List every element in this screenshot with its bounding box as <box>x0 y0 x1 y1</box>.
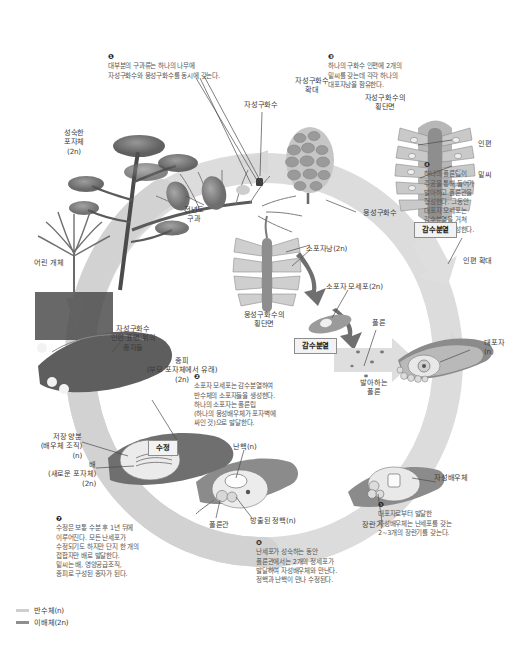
label-ovule: 밑씨 <box>478 170 518 179</box>
note-3: ❸ 하나의 구화수 인편에 2개의 밑씨를 갖는데 각각 하나의 대포자낭을 함… <box>328 44 460 90</box>
legend-label-diploid: 이배체(2n) <box>34 617 68 627</box>
note-3-number: ❸ <box>328 53 334 61</box>
label-female-cone: 자성구화수 <box>228 100 294 109</box>
label-microsporangium: 소포자낭(2n) <box>306 244 378 253</box>
process-box-meiosis-male: 감수분열 <box>294 338 337 354</box>
process-box-fertilization: 수정 <box>148 440 178 456</box>
label-germinating-pollen: 발아하는 폴른 <box>350 378 398 397</box>
label-archegonium: 장란기 <box>362 520 398 529</box>
label-stored-nutrients: 저장 양분 (배우체 조직) (n) <box>6 432 82 460</box>
label-male-cone-section: 웅성구화수의 횡단면 <box>226 310 302 329</box>
legend-item-diploid: 이배체(2n) <box>16 616 68 628</box>
note-2-text: 소포자 모세포는 감수분열하여 반수체의 소포자들을 생성한다. 하나의 소포자… <box>194 382 276 427</box>
label-female-gametophyte: 자성배우체 <box>434 473 494 482</box>
legend-swatch-diploid <box>16 621 29 624</box>
legend: 반수체(n) 이배체(2n) <box>16 604 68 628</box>
label-scale-enlarged: 인편 확대 <box>463 256 519 265</box>
label-pollen-tube: 폴른관 <box>200 520 238 529</box>
label-male-cone: 웅성구화수 <box>350 208 410 217</box>
label-seeds-on-scale: 자성구화수 인편 표면 위의 종자들 <box>92 324 174 352</box>
note-7: ❼ 수정은 보통 수분 후 1년 뒤에 이루어진다. 모든 난세포가 수정되기도… <box>56 506 216 580</box>
note-6-text: 난세포가 성숙하는 동안 폴른관에서는 2개의 정세포가 발달하여 자성배우체와… <box>256 548 337 584</box>
note-7-number: ❼ <box>56 515 62 523</box>
process-box-meiosis-female: 감수분열 <box>414 222 457 238</box>
legend-label-haploid: 반수체(n) <box>34 605 64 615</box>
note-1: ❶ 대부분의 구과류는 하나의 나무에 자성구화수와 웅성구화수를 동시에 갖는… <box>108 44 304 81</box>
label-female-cone-enlarged: 자성구화수 확대 <box>279 76 345 95</box>
note-6-number: ❻ <box>256 539 262 547</box>
label-female-cone-section: 자성구화수의 횡단면 <box>348 93 422 112</box>
label-mature-sporophyte: 성숙한 포자체 (2n) <box>42 128 106 156</box>
microspore-mother-cell-illustration <box>307 311 354 337</box>
legend-swatch-haploid <box>16 609 29 612</box>
note-4-number: ❹ <box>424 161 430 169</box>
note-6: ❻ 난세포가 성숙하는 동안 폴른관에서는 2개의 정세포가 발달하여 자성배우… <box>256 530 418 585</box>
male-cone-section-illustration <box>233 216 301 312</box>
note-5-number: ❺ <box>378 501 384 509</box>
label-young-seedling: 어린 개체 <box>16 258 82 267</box>
label-egg-nucleus: 난핵(n) <box>224 442 266 451</box>
note-1-number: ❶ <box>108 53 114 61</box>
label-megaspore: 대포자 (n) <box>484 338 524 357</box>
legend-item-haploid: 반수체(n) <box>16 604 68 616</box>
pine-life-cycle-diagram: ❶ 대부분의 구과류는 하나의 나무에 자성구화수와 웅성구화수를 동시에 갖는… <box>0 0 528 655</box>
label-previous-year-cone: 전년도 구과 <box>172 205 216 224</box>
label-seed-coat: 종피 (부모 포자체에서 유래) (2n) <box>132 356 232 384</box>
label-microspore-mother-cell: 소포자 모세포(2n) <box>326 282 414 291</box>
note-7-text: 수정은 보통 수분 후 1년 뒤에 이루어진다. 모든 난세포가 수정되기도 하… <box>56 524 139 578</box>
label-pollen: 폴른 <box>372 318 408 327</box>
label-embryo: 배 (새로운 포자체) (2n) <box>16 460 96 488</box>
label-scale: 인편 <box>478 139 518 148</box>
label-released-sperm-nucleus: 방출된 정핵(n) <box>250 516 320 525</box>
note-1-text: 대부분의 구과류는 하나의 나무에 자성구화수와 웅성구화수를 동시에 갖는다. <box>108 62 220 79</box>
